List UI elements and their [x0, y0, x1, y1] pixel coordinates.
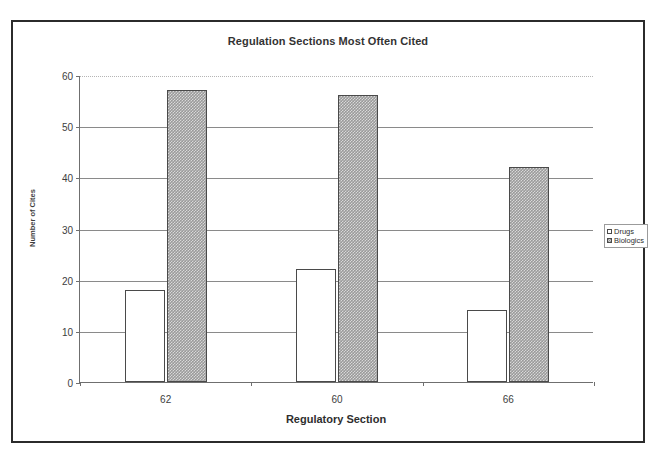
legend-label: Drugs	[614, 227, 634, 236]
y-tick-label-20: 20	[62, 275, 73, 286]
gridline-60	[80, 76, 593, 77]
y-tick-30	[76, 230, 80, 231]
bar-drugs-66	[467, 310, 507, 382]
y-tick-20	[76, 281, 80, 282]
x-tick-2	[423, 382, 424, 386]
x-axis-title: Regulatory Section	[79, 413, 593, 425]
y-tick-10	[76, 332, 80, 333]
chart-title: Regulation Sections Most Often Cited	[13, 35, 643, 47]
y-tick-label-10: 10	[62, 326, 73, 337]
gridline-50	[80, 127, 593, 128]
y-tick-label-40: 40	[62, 173, 73, 184]
x-tick-0	[80, 382, 81, 386]
white-square-icon	[607, 229, 612, 234]
bar-biologics-66	[509, 167, 549, 382]
bar-biologics-62	[167, 90, 207, 382]
x-tick-label-60: 60	[331, 394, 342, 405]
bar-biologics-60	[338, 95, 378, 382]
hatched-square-icon	[607, 238, 612, 243]
plot-area: 0102030405060626066	[79, 76, 593, 383]
y-tick-40	[76, 178, 80, 179]
bar-drugs-62	[125, 290, 165, 382]
legend-item-drugs: Drugs	[607, 227, 644, 236]
chart-page-frame: Regulation Sections Most Often Cited Num…	[11, 20, 645, 443]
y-tick-label-0: 0	[67, 378, 73, 389]
y-tick-60	[76, 76, 80, 77]
x-tick-label-66: 66	[503, 394, 514, 405]
y-axis-title: Number of Cites	[28, 189, 37, 247]
x-tick-label-62: 62	[160, 394, 171, 405]
y-tick-label-50: 50	[62, 122, 73, 133]
y-tick-50	[76, 127, 80, 128]
x-tick-end	[594, 382, 595, 386]
legend-label: Biologics	[614, 236, 644, 245]
legend-item-biologics: Biologics	[607, 236, 644, 245]
x-tick-1	[251, 382, 252, 386]
y-tick-label-30: 30	[62, 224, 73, 235]
chart-legend: DrugsBiologics	[604, 224, 648, 248]
y-tick-label-60: 60	[62, 71, 73, 82]
bar-drugs-60	[296, 269, 336, 382]
